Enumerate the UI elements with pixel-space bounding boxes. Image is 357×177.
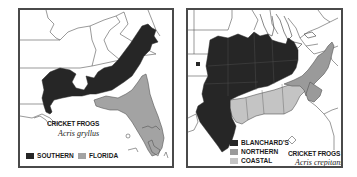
map-title: CRICKET FROGS <box>288 149 340 158</box>
legend-swatch-blanchards <box>230 140 238 146</box>
detached-population <box>196 62 200 66</box>
legend-swatch-florida <box>78 153 86 159</box>
map-panel-acris-crepitans: BLANCHARD'S NORTHERN COASTAL CRICKET FRO… <box>186 8 343 168</box>
legend-item-florida: FLORIDA <box>78 151 125 160</box>
legend-label: BLANCHARD'S <box>241 138 289 147</box>
legend-item-coastal: COASTAL <box>230 156 279 165</box>
legend-item-southern: SOUTHERN <box>26 151 82 160</box>
legend-label: COASTAL <box>241 156 272 165</box>
species-name: Acris crepitans <box>295 158 343 167</box>
legend-item-northern: NORTHERN <box>230 147 286 156</box>
legend-swatch-coastal <box>230 158 238 164</box>
map-title: CRICKET FROGS <box>47 119 99 128</box>
map-panel-acris-gryllus: CRICKET FROGS Acris gryllus SOUTHERN FLO… <box>18 8 174 168</box>
legend-label: FLORIDA <box>89 151 118 160</box>
species-name: Acris gryllus <box>58 129 99 138</box>
legend-label: SOUTHERN <box>37 151 74 160</box>
legend-item-blanchards: BLANCHARD'S <box>230 138 299 147</box>
legend-swatch-southern <box>26 153 34 159</box>
legend-label: NORTHERN <box>241 147 278 156</box>
range-map-southeast-us <box>20 10 172 166</box>
legend-swatch-northern <box>230 149 238 155</box>
